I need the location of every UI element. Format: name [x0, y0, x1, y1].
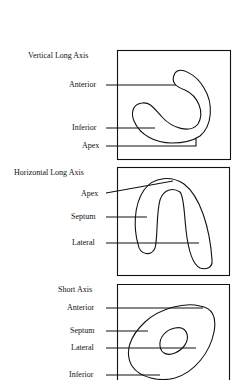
- short-axis-frame: [118, 285, 230, 380]
- short-axis-inner-cavity: [160, 328, 188, 355]
- label-apex: Apex: [82, 142, 99, 150]
- panel-title-vertical-long-axis: Vertical Long Axis: [28, 52, 88, 60]
- vertical-long-axis-shape: [133, 70, 211, 143]
- label-apex: Apex: [81, 190, 98, 198]
- panel-title-horizontal-long-axis: Horizontal Long Axis: [14, 169, 84, 177]
- horizontal-long-axis-shape: [135, 179, 212, 269]
- panel-title-short-axis: Short Axis: [58, 286, 92, 294]
- label-septum: Septum: [70, 327, 94, 335]
- label-anterior: Anterior: [69, 81, 96, 89]
- label-anterior: Anterior: [67, 304, 94, 312]
- short-axis-outer-wall: [128, 305, 214, 380]
- label-septum: Septum: [71, 213, 95, 221]
- label-inferior: Inferior: [72, 124, 96, 132]
- horizontal-long-axis-frame: [118, 168, 230, 276]
- label-lateral: Lateral: [71, 344, 94, 352]
- label-inferior: Inferior: [69, 371, 93, 379]
- label-lateral: Lateral: [72, 239, 95, 247]
